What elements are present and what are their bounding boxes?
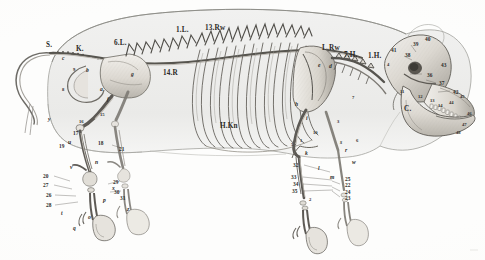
label-1L: 1.L. [176,27,189,34]
callout-22: 22 [345,183,350,188]
label-LRw: L.Rw [322,45,340,52]
label-1H: 1.H. [368,53,382,60]
callout-46: 46 [467,112,472,117]
key-l: l [318,166,320,172]
callout-26: 26 [46,193,51,198]
callout-29: 29 [113,180,118,185]
callout-6: 6 [356,139,358,144]
callout-41: 41 [391,48,396,53]
callout-38: 38 [405,53,410,58]
callout-5: 5 [291,143,293,148]
callout-24: 24 [345,190,350,195]
callout-40: 40 [425,37,430,42]
callout-9: 9 [73,68,75,73]
callout-23: 23 [345,196,350,201]
label-6L: 6.L. [114,40,127,47]
callout-47: 47 [462,123,467,128]
callout-15: 15 [100,113,105,118]
label-S: S. [46,42,52,49]
callout-14: 14 [438,104,443,109]
callout-11: 11 [400,90,404,95]
key-d: d [329,64,332,70]
callout-1: 1 [300,139,302,144]
callout-48: 48 [456,131,461,136]
callout-25: 25 [345,177,350,182]
callout-8: 8 [62,88,64,93]
callout-2: 2 [309,198,311,203]
label-7H: 7.H. [344,52,358,59]
callout-34: 34 [293,182,298,187]
key-n: n [95,160,98,166]
key-q: q [73,226,76,232]
key-y: y [48,117,50,123]
callout-13: 13 [430,99,435,104]
callout-28: 28 [46,203,51,208]
callout-19: 19 [59,144,64,149]
callout-17: 17 [73,131,78,136]
callout-10: 10 [313,131,318,136]
key-u: u [68,140,71,146]
key-m: m [330,175,334,181]
callout-45: 45 [460,95,465,100]
key-g: g [131,72,134,78]
callout-44: 44 [449,101,454,106]
callout-43: 43 [441,63,446,68]
key-a: a [100,87,103,93]
label-HKn: H.Kn [220,123,238,130]
key-v: v [70,165,72,171]
callout-37: 37 [439,81,444,86]
anatomical-plate: S. K. 6.L. 1.L. 13.Rw 14.R H.Kn L.Rw 7.H… [0,0,485,260]
callout-12: 12 [418,95,423,100]
label-K: K. [76,46,84,53]
key-f: f [107,97,109,103]
key-b: b [86,68,89,74]
callout-27: 27 [43,183,48,188]
callout-42: 42 [453,90,458,95]
label-13Rw: 13.Rw [205,25,225,32]
callout-4: 4 [387,63,389,68]
callout-3: 3 [337,120,339,125]
key-e: e [318,63,320,69]
callout-7: 7 [352,96,354,101]
key-h: h [295,102,298,108]
callout-32: 32 [293,163,298,168]
callout-18: 18 [98,141,103,146]
key-o: o [88,215,91,221]
key-p: p [103,198,106,204]
callout-30: 30 [114,190,119,195]
callout-36: 36 [427,73,432,78]
callout-39: 39 [413,42,418,47]
key-i: i [306,116,308,122]
label-14R: 14.R [163,70,178,77]
key-k: k [305,151,308,157]
key-z: z [127,207,129,213]
label-C: C. [404,106,411,113]
callout-33: 33 [291,175,296,180]
callout-35: 35 [292,189,297,194]
key-t: t [61,211,63,217]
callout-16: 16 [79,120,84,125]
callout-31: 31 [120,196,125,201]
key-w: w [352,160,356,166]
callout-21: 21 [119,147,124,152]
key-s: s [340,140,342,146]
key-c: c [62,56,64,62]
key-r: r [345,148,347,154]
callout-20: 20 [43,174,48,179]
